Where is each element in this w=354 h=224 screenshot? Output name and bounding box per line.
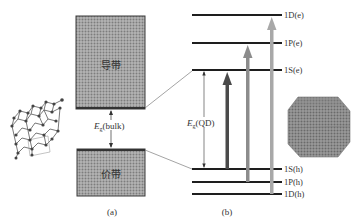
valence-band-label: 价带 [101,169,121,180]
energy-level-diagram: 导带 价带 Eg(bulk) (a) [0,0,354,224]
svg-text:1S(h): 1S(h) [284,164,303,174]
svg-text:1D(e): 1D(e) [284,10,304,20]
transition-1p-arrow [243,45,253,182]
svg-text:1P(e): 1P(e) [284,38,303,48]
bulk-crystal-lattice-icon [12,100,62,158]
svg-text:1D(h): 1D(h) [284,189,304,199]
band-connector-lines [145,71,192,169]
qd-gap-label: Eg(QD) [186,118,215,129]
svg-text:1S(e): 1S(e) [284,65,303,75]
panel-a: 导带 价带 Eg(bulk) (a) [10,16,145,217]
panel-a-caption: (a) [107,207,117,217]
panel-b-caption: (b) [222,207,233,217]
bulk-gap-label: Eg(bulk) [93,121,125,132]
conduction-band-label: 导带 [101,60,121,71]
quantum-dot-nanocrystal-icon [288,97,350,157]
panel-b: 1D(e) 1P(e) 1S(e) 1S(h) 1P(h) 1D(h) Eg(Q… [185,10,350,217]
energy-levels [192,15,282,194]
svg-text:1P(h): 1P(h) [284,177,303,187]
